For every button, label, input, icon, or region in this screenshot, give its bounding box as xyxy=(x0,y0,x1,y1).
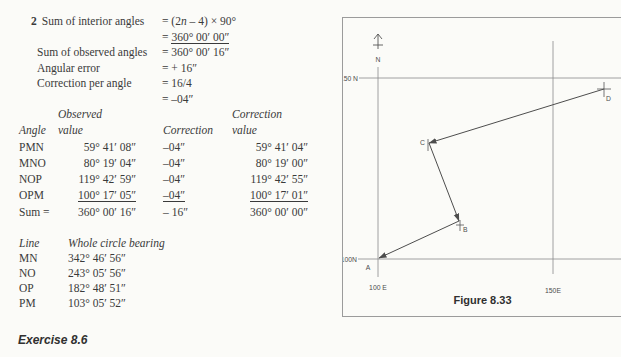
calc-line2-value: = 360° 00′ 00″ xyxy=(162,30,236,46)
observed-value: 59° 41′ 08″ xyxy=(84,141,136,153)
north-arrow-icon xyxy=(373,34,383,49)
station-label-D: D xyxy=(606,95,611,102)
gridlabel-150E: 150E xyxy=(545,287,561,294)
corrected-value: 100° 17′ 01″ xyxy=(250,189,308,202)
angle-name: OPM xyxy=(19,187,58,203)
calc-line3-value: = 360° 00′ 16″ xyxy=(162,45,236,61)
observed-value: 119° 42′ 59″ xyxy=(79,173,136,185)
line-name: OP xyxy=(19,281,68,296)
station-label-A: A xyxy=(366,264,371,271)
textbook-page: 2Sum of interior angles = (2n – 4) × 90°… xyxy=(0,0,621,357)
line-name: NO xyxy=(19,266,68,281)
bearing-header-row: Line Whole circle bearing xyxy=(19,236,165,251)
table-row: Sum = 360° 00′ 16″ – 16″ 360° 00′ 00″ xyxy=(19,204,308,220)
correction-header: Correction xyxy=(163,122,232,138)
gridlabel-150N: 150 N xyxy=(343,75,358,82)
station-label-B: B xyxy=(463,226,468,233)
observed-header-bottom: value xyxy=(58,122,163,138)
bearing-value: 103° 05′ 52″ xyxy=(68,296,165,311)
line-name: MN xyxy=(19,251,68,266)
correction-value-header-bottom: value xyxy=(232,122,308,138)
angle-name: PMN xyxy=(19,139,58,155)
correction-value-header-top: Correction xyxy=(232,106,308,122)
calc-line1-label: 2Sum of interior angles xyxy=(31,14,162,30)
traverse-plot: N 150 N 100N 100 E 150E xyxy=(343,18,621,316)
leg-B-A xyxy=(379,221,459,258)
bearing-value: 243° 05′ 56″ xyxy=(68,266,165,281)
figure-caption: Figure 8.33 xyxy=(343,294,621,306)
table-row: MN 342° 46′ 56″ xyxy=(19,251,165,266)
observed-value: 360° 00′ 16″ xyxy=(78,206,136,218)
corrected-value: 59° 41′ 04″ xyxy=(256,141,308,153)
gridlabel-100N: 100N xyxy=(343,256,357,263)
calc-line5-label: Correction per angle xyxy=(31,76,162,92)
north-label: N xyxy=(376,56,381,63)
calc-line3-label: Sum of observed angles xyxy=(31,45,162,61)
table-row: PMN 59° 41′ 08″ –04″ 59° 41′ 04″ xyxy=(19,139,308,155)
observed-value: 100° 17′ 05″ xyxy=(78,189,136,202)
table-header-row-1: Observed Correction xyxy=(19,106,308,122)
bearing-rows: MN 342° 46′ 56″ NO 243° 05′ 56″ OP 182° … xyxy=(19,251,165,311)
observed-value: 80° 19′ 04″ xyxy=(84,157,136,169)
calc-line4-value: = + 16″ xyxy=(162,61,236,77)
bearing-header: Whole circle bearing xyxy=(68,236,165,251)
interior-angle-calculation: 2Sum of interior angles = (2n – 4) × 90°… xyxy=(31,14,236,108)
whole-circle-bearing-table: Line Whole circle bearing MN 342° 46′ 56… xyxy=(19,236,165,311)
table-row: OPM 100° 17′ 05″ –04″ 100° 17′ 01″ xyxy=(19,187,308,203)
table-row: PM 103° 05′ 52″ xyxy=(19,296,165,311)
figure-8-33: N 150 N 100N 100 E 150E xyxy=(342,17,621,317)
line-name: PM xyxy=(19,296,68,311)
angle-name: NOP xyxy=(19,171,58,187)
station-ticks xyxy=(428,82,611,231)
table-row: NO 243° 05′ 56″ xyxy=(19,266,165,281)
station-label-C: C xyxy=(420,139,425,146)
item-number: 2 xyxy=(31,15,37,27)
angle-name: Sum = xyxy=(19,204,58,220)
line-header: Line xyxy=(19,236,68,251)
correction: – 16″ xyxy=(163,206,188,218)
observed-header-top: Observed xyxy=(58,106,163,122)
bearing-value: 342° 46′ 56″ xyxy=(68,251,165,266)
angle-name: MNO xyxy=(19,155,58,171)
angle-correction-table: Observed Correction Angle value Correcti… xyxy=(19,106,308,220)
calc-line4-label: Angular error xyxy=(31,61,162,77)
angle-header: Angle xyxy=(19,122,58,138)
leg-C-B xyxy=(429,143,459,221)
correction: –04″ xyxy=(163,157,185,169)
leg-D-C xyxy=(429,89,604,143)
table-header-row-2: Angle value Correction value xyxy=(19,122,308,138)
gridlabel-100E: 100 E xyxy=(369,284,387,291)
correction: –04″ xyxy=(163,173,185,185)
traverse-legs xyxy=(379,89,604,258)
correction: –04″ xyxy=(163,189,185,202)
exercise-heading: Exercise 8.6 xyxy=(18,333,87,347)
angle-rows: PMN 59° 41′ 08″ –04″ 59° 41′ 04″ MNO 80°… xyxy=(19,139,308,220)
correction: –04″ xyxy=(163,141,185,153)
table-row: OP 182° 48′ 51″ xyxy=(19,281,165,296)
table-row: MNO 80° 19′ 04″ –04″ 80° 19′ 00″ xyxy=(19,155,308,171)
bearing-value: 182° 48′ 51″ xyxy=(68,281,165,296)
calc-line5-value: = 16/4 xyxy=(162,76,236,92)
table-row: NOP 119° 42′ 59″ –04″ 119° 42′ 55″ xyxy=(19,171,308,187)
corrected-value: 360° 00′ 00″ xyxy=(250,206,308,218)
corrected-value: 80° 19′ 00″ xyxy=(256,157,308,169)
calc-line1-value: = (2n – 4) × 90° xyxy=(162,14,236,30)
corrected-value: 119° 42′ 55″ xyxy=(251,173,308,185)
